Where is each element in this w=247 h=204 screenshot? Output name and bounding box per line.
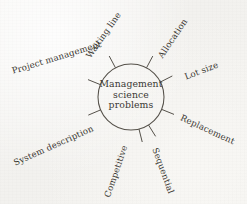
- spoke-line: [149, 125, 156, 136]
- spoke-line: [89, 110, 101, 115]
- spoke-line: [147, 56, 153, 67]
- spoke-line: [109, 56, 115, 67]
- spoke-line: [139, 130, 142, 142]
- hub-label-line-1: Management: [98, 79, 164, 90]
- hub-label-line-3: problems: [98, 100, 164, 111]
- radial-diagram: Management science problems Waiting line…: [0, 0, 247, 204]
- hub-label: Management science problems: [98, 79, 164, 111]
